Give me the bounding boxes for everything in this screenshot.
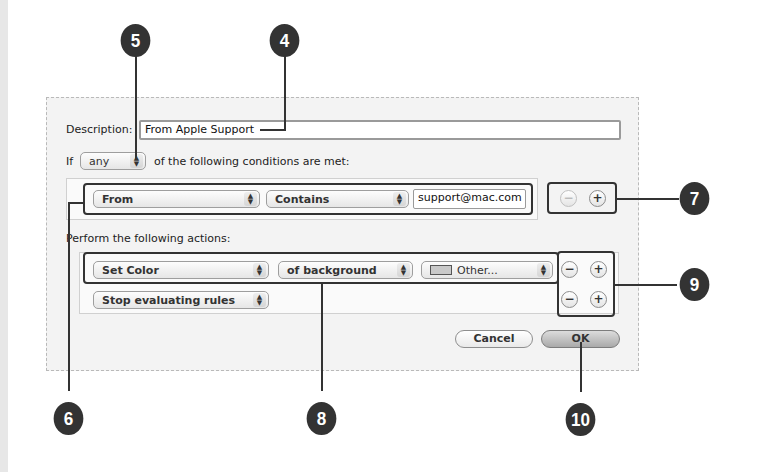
callout-7: 7 [680, 182, 710, 215]
popup-arrows-icon: ▲▼ [537, 263, 550, 277]
minus-icon: − [563, 191, 573, 205]
color-swatch-icon [430, 265, 452, 275]
condition-value: support@mac.com [418, 191, 522, 204]
callout-6-line-v [68, 203, 70, 391]
cancel-button[interactable]: Cancel [455, 330, 533, 348]
description-value: From Apple Support [145, 123, 254, 136]
color-option-value: Other... [457, 264, 498, 277]
callout-8: 8 [307, 402, 337, 435]
callout-7-line [617, 198, 679, 200]
plus-icon: + [593, 262, 603, 276]
condition-operator-popup[interactable]: Contains ▲▼ [266, 190, 409, 208]
action-stop-popup[interactable]: Stop evaluating rules ▲▼ [93, 291, 269, 309]
if-label: If [66, 155, 73, 168]
popup-arrows-icon: ▲▼ [393, 192, 406, 206]
remove-condition-button[interactable]: − [560, 190, 577, 207]
popup-arrows-icon: ▲▼ [253, 293, 266, 307]
description-field[interactable]: From Apple Support [139, 120, 621, 140]
action-type-value: Set Color [102, 264, 159, 277]
minus-icon: − [564, 262, 574, 276]
condition-field-value: From [102, 193, 133, 206]
add-action-1-button[interactable]: + [590, 261, 607, 278]
callout-9: 9 [680, 268, 710, 301]
condition-field-popup[interactable]: From ▲▼ [93, 190, 260, 208]
popup-arrows-icon: ▲▼ [253, 263, 266, 277]
callout-4-line-v [284, 50, 286, 130]
callout-5: 5 [121, 24, 151, 57]
minus-icon: − [564, 292, 574, 306]
actions-label: Perform the following actions: [66, 232, 230, 245]
plus-icon: + [592, 191, 602, 205]
popup-arrows-icon: ▲▼ [244, 192, 257, 206]
remove-action-1-button[interactable]: − [561, 261, 578, 278]
remove-action-2-button[interactable]: − [561, 291, 578, 308]
description-label: Description: [66, 123, 132, 136]
callout-10: 10 [566, 403, 596, 436]
popup-arrows-icon: ▲▼ [397, 263, 410, 277]
color-popup[interactable]: Other... ▲▼ [421, 261, 553, 279]
action-type-popup[interactable]: Set Color ▲▼ [93, 261, 269, 279]
condition-operator-value: Contains [275, 193, 329, 206]
callout-6-line-h [68, 202, 85, 204]
callout-8-line [321, 284, 323, 391]
callout-6: 6 [54, 402, 84, 435]
condition-value-field[interactable]: support@mac.com [413, 189, 526, 209]
add-condition-button[interactable]: + [589, 190, 606, 207]
callout-4-line-h [260, 129, 286, 131]
page-edge-strip [0, 0, 8, 472]
add-action-2-button[interactable]: + [590, 291, 607, 308]
callout-10-line [580, 342, 582, 392]
action-stop-value: Stop evaluating rules [102, 294, 235, 307]
action-target-value: of background [287, 264, 377, 277]
conditions-suffix-label: of the following conditions are met: [154, 155, 349, 168]
cancel-label: Cancel [473, 332, 514, 345]
callout-4: 4 [270, 24, 300, 57]
match-selector-value: any [89, 155, 109, 168]
callout-5-line [135, 50, 137, 160]
plus-icon: + [593, 292, 603, 306]
callout-9-line [615, 284, 677, 286]
action-target-popup[interactable]: of background ▲▼ [278, 261, 413, 279]
